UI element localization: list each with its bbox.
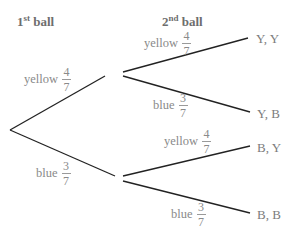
color-name: yellow [24,72,58,87]
probability-fraction: 4 7 [182,30,191,57]
numerator: 4 [184,30,190,42]
denominator: 7 [63,175,69,187]
probability-fraction: 3 7 [62,160,71,187]
heading-text: ball [179,14,203,29]
second-bb-label: blue 3 7 [171,201,206,228]
outcome-yy: Y, Y [256,31,279,47]
second-ball-heading: 2nd ball [162,14,203,30]
probability-fraction: 4 7 [202,128,211,155]
numerator: 3 [63,160,69,172]
numerator: 4 [64,66,70,78]
numerator: 4 [204,128,210,140]
probability-fraction: 4 7 [62,66,71,93]
color-name: blue [153,98,175,113]
color-name: blue [36,166,58,181]
second-by-label: yellow 4 7 [164,128,211,155]
outcome-yb: Y, B [257,106,280,122]
color-name: yellow [144,36,178,51]
numerator: 3 [198,201,204,213]
color-name: blue [171,207,193,222]
denominator: 7 [198,216,204,228]
second-yy-label: yellow 4 7 [144,30,191,57]
heading-ordinal: nd [169,13,179,23]
probability-fraction: 3 7 [197,201,206,228]
outcome-by: B, Y [257,140,281,156]
second-yb-label: blue 3 7 [153,92,188,119]
first-ball-heading: 1st ball [17,14,54,30]
denominator: 7 [184,45,190,57]
denominator: 7 [64,81,70,93]
probability-tree-diagram: 1st ball 2nd ball yellow 4 7 blue 3 7 ye… [0,0,299,235]
color-name: yellow [164,134,198,149]
heading-text: ball [30,14,54,29]
first-yellow-label: yellow 4 7 [24,66,71,93]
numerator: 3 [180,92,186,104]
probability-fraction: 3 7 [179,92,188,119]
first-blue-label: blue 3 7 [36,160,71,187]
denominator: 7 [180,107,186,119]
outcome-bb: B, B [257,207,281,223]
denominator: 7 [204,143,210,155]
